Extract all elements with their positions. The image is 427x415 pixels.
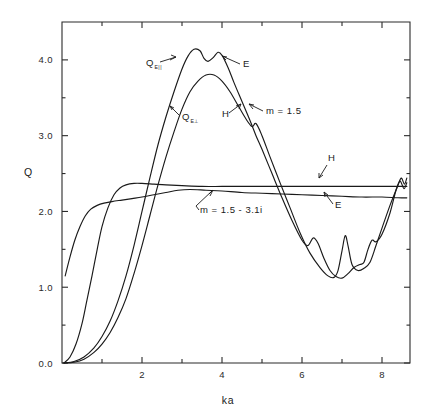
y-tick-label: 4.0 [39,54,53,65]
annotation-subscript: E|| [154,64,162,70]
y-tick-label: 2.0 [39,206,53,217]
x-axis-title: ka [222,394,234,406]
y-tick-label: 3.0 [39,130,53,141]
y-axis-title: Q [24,166,33,178]
y-tick-label: 1.0 [39,282,53,293]
annotation-label-e-peak: E [243,58,250,69]
annotation-subscript: E⊥ [190,118,198,124]
x-tick-label: 4 [219,369,225,380]
x-tick-label: 2 [139,369,145,380]
x-tick-label: 6 [299,369,305,380]
annotation-label-m15: m = 1.5 [266,105,301,116]
annotation-label-m15-31i: m = 1.5 - 3.1i [200,204,263,215]
annotation-label-h-peak: H [222,108,229,119]
annotation-label-e-right: E [335,199,342,210]
x-tick-label: 8 [379,369,385,380]
annotation-label-h-right: H [328,152,335,163]
chart-canvas: 0.01.02.03.04.0 2468 Q ka QE||QE⊥EHm = 1… [0,0,427,415]
y-tick-label: 0.0 [39,358,53,369]
scattering-efficiency-figure: 0.01.02.03.04.0 2468 Q ka QE||QE⊥EHm = 1… [0,0,427,415]
